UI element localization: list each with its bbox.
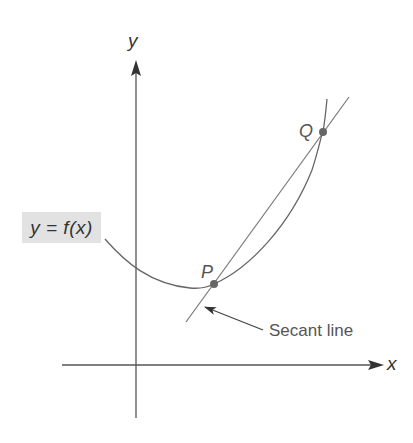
annotation-arrow [205, 307, 263, 330]
y-axis-label: y [128, 30, 138, 52]
point-q [319, 128, 327, 136]
point-q-label: Q [299, 121, 313, 142]
point-p-label: P [201, 262, 213, 283]
x-axis-label: x [387, 353, 397, 375]
secant-line-annotation: Secant line [269, 321, 353, 341]
function-label: y = f(x) [22, 212, 101, 243]
function-curve [105, 99, 327, 288]
